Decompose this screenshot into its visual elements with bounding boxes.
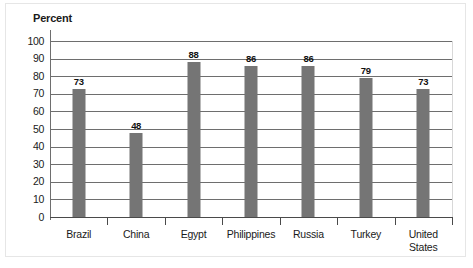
y-tick-label-30: 30 [4, 158, 44, 170]
bar-group: 73 [50, 41, 107, 217]
x-axis-tick [452, 218, 453, 225]
y-tick-label-90: 90 [4, 52, 44, 64]
bar-value-label: 86 [246, 53, 256, 64]
x-axis-label-russia: Russia [280, 228, 337, 241]
y-tick-label-60: 60 [4, 105, 44, 117]
bar-group: 48 [107, 41, 164, 217]
bar-group: 73 [395, 41, 452, 217]
bar-value-label: 88 [189, 49, 199, 60]
bar-value-label: 73 [74, 76, 84, 87]
y-tick-label-0: 0 [4, 211, 44, 223]
x-axis-tick [222, 218, 223, 225]
plot-right-edge [452, 41, 453, 217]
bar-group: 86 [222, 41, 279, 217]
y-tick-label-80: 80 [4, 70, 44, 82]
bar [417, 89, 430, 217]
bar-value-label: 73 [418, 76, 428, 87]
x-axis-tick [395, 218, 396, 225]
y-axis-title: Percent [33, 12, 72, 24]
x-axis-label-philippines: Philippines [222, 228, 279, 241]
bar-group: 86 [280, 41, 337, 217]
bar [187, 62, 200, 217]
plot-area: 73488886867973 [50, 41, 452, 217]
y-tick-label-70: 70 [4, 87, 44, 99]
bar-value-label: 86 [303, 53, 313, 64]
y-tick-label-50: 50 [4, 123, 44, 135]
y-tick-label-20: 20 [4, 175, 44, 187]
x-axis-label-brazil: Brazil [50, 228, 107, 241]
x-axis-tick [280, 218, 281, 225]
x-axis-label-egypt: Egypt [165, 228, 222, 241]
x-axis-label-china: China [107, 228, 164, 241]
bar-group: 79 [337, 41, 394, 217]
x-axis-tick [337, 218, 338, 225]
x-axis-label-turkey: Turkey [337, 228, 394, 241]
bar [244, 66, 257, 217]
y-tick-label-40: 40 [4, 140, 44, 152]
x-axis-tick [107, 218, 108, 225]
y-tick-label-100: 100 [4, 35, 44, 47]
bar [130, 133, 143, 217]
bar-value-label: 79 [361, 65, 371, 76]
x-axis-label-united-states: United States [395, 228, 452, 253]
bar-chart-figure: Percent 73488886867973 10090807060504030… [0, 0, 473, 268]
bar [72, 89, 85, 217]
x-axis-line [50, 217, 453, 218]
bar [302, 66, 315, 217]
bar [359, 78, 372, 217]
x-axis-tick [165, 218, 166, 225]
bar-value-label: 48 [131, 120, 141, 131]
bar-group: 88 [165, 41, 222, 217]
y-tick-label-10: 10 [4, 193, 44, 205]
